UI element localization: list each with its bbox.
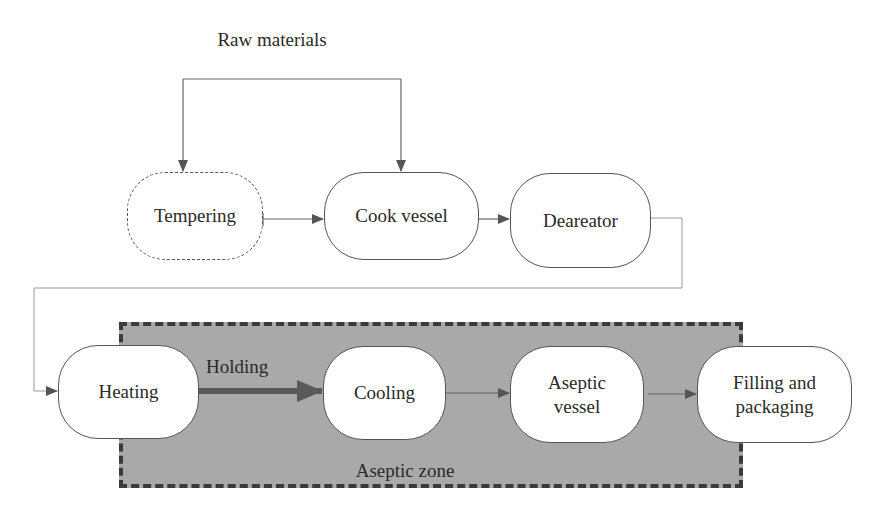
node-deaereator-label: Deareator: [543, 209, 618, 233]
node-heating[interactable]: Heating: [58, 345, 199, 439]
holding-label: Holding: [206, 355, 286, 379]
node-heating-label: Heating: [98, 380, 158, 404]
node-aseptic-vessel-label: Aseptic vessel: [548, 371, 606, 419]
node-tempering-label: Tempering: [154, 204, 236, 228]
node-tempering[interactable]: Tempering: [127, 172, 263, 260]
node-cook-vessel[interactable]: Cook vessel: [324, 172, 479, 260]
process-flow-diagram: Aseptic zone: [0, 0, 879, 513]
raw-materials-connector: [183, 79, 401, 171]
raw-materials-label: Raw materials: [212, 28, 332, 52]
node-cook-vessel-label: Cook vessel: [355, 204, 447, 228]
node-aseptic-vessel[interactable]: Aseptic vessel: [510, 346, 644, 443]
node-cooling[interactable]: Cooling: [323, 346, 446, 440]
node-cooling-label: Cooling: [354, 381, 415, 405]
arrow-tempering-to-cook: [263, 213, 323, 226]
node-filling-packaging-label: Filling and packaging: [733, 371, 816, 419]
node-filling-packaging[interactable]: Filling and packaging: [697, 346, 852, 443]
node-deaereator[interactable]: Deareator: [510, 173, 651, 268]
